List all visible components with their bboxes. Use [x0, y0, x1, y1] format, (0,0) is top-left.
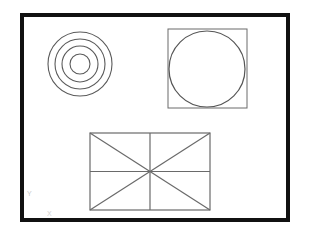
rectangle-with-diagonals-group[interactable]	[90, 133, 210, 210]
axis-mark-x: X	[47, 210, 52, 217]
rectangle-internal-lines	[90, 133, 210, 210]
canvas-background	[0, 0, 309, 232]
axis-mark-y: Y	[27, 190, 32, 197]
drawing-canvas: YX	[0, 0, 309, 232]
cad-drawing-surface[interactable]: YX	[0, 0, 309, 232]
